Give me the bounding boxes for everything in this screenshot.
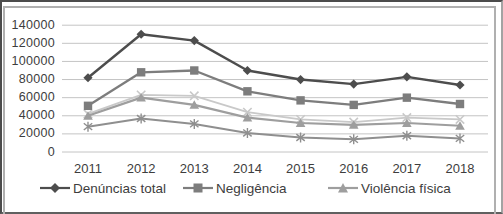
- data-point-diamond: [349, 79, 358, 88]
- x-tick-label: 2015: [275, 161, 327, 176]
- legend-item-violencia-fisica: Violência física: [328, 179, 451, 197]
- data-point-square: [403, 93, 411, 101]
- data-point-square: [456, 100, 464, 108]
- x-tick-label: 2013: [168, 161, 220, 176]
- data-point-square: [296, 96, 304, 104]
- legend-marker-square-icon: [183, 182, 213, 194]
- data-point-square: [84, 102, 92, 110]
- y-tick-label: 100000: [0, 54, 55, 69]
- x-tick-label: 2018: [434, 161, 486, 176]
- x-tick-label: 2016: [328, 161, 380, 176]
- data-point-diamond: [402, 72, 411, 81]
- x-tick-label: 2012: [115, 161, 167, 176]
- y-tick-label: 40000: [0, 108, 55, 123]
- y-tick-label: 60000: [0, 90, 55, 105]
- data-point-diamond: [455, 80, 464, 89]
- data-point-square: [137, 68, 145, 76]
- y-tick-label: 80000: [0, 72, 55, 87]
- data-point-diamond: [296, 75, 305, 84]
- legend-item-denuncias-total: Denúncias total: [40, 179, 166, 197]
- data-point-square: [350, 101, 358, 109]
- data-point-square: [190, 66, 198, 74]
- chart-legend: Denúncias total Negligência Violência fí…: [0, 179, 503, 197]
- x-tick-label: 2014: [221, 161, 273, 176]
- y-tick-label: 20000: [0, 126, 55, 141]
- legend-label: Denúncias total: [73, 181, 166, 196]
- legend-marker-diamond-icon: [40, 182, 70, 194]
- y-tick-label: 120000: [0, 36, 55, 51]
- legend-label: Negligência: [216, 181, 287, 196]
- data-point-diamond: [190, 36, 199, 45]
- series-line-asterisk: [88, 118, 460, 139]
- x-tick-label: 2011: [62, 161, 114, 176]
- y-tick-label: 140000: [0, 18, 55, 33]
- legend-item-negligencia: Negligência: [183, 179, 287, 197]
- data-point-diamond: [243, 66, 252, 75]
- x-tick-label: 2017: [381, 161, 433, 176]
- legend-label: Violência física: [361, 181, 451, 196]
- data-point-square: [243, 87, 251, 95]
- y-tick-label: 0: [0, 145, 55, 160]
- legend-marker-triangle-icon: [328, 182, 358, 194]
